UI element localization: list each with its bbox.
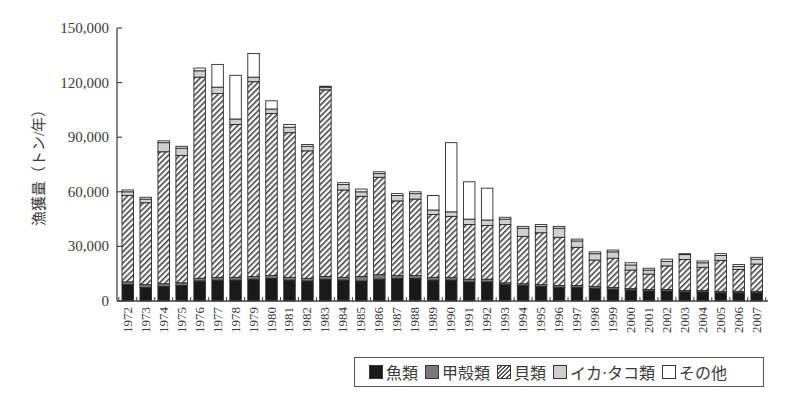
legend-label: 甲殻類 xyxy=(442,360,490,384)
bar-segment-other xyxy=(535,225,547,227)
x-tick-label: 1996 xyxy=(551,307,566,334)
x-tick-label: 1999 xyxy=(605,307,620,333)
bar-segment-squid xyxy=(553,228,565,237)
bar-segment-squid xyxy=(194,71,206,77)
bar-segment-squid xyxy=(302,146,314,151)
bar-segment-squid xyxy=(571,241,583,247)
y-axis-title: 漁獲量（トン/年） xyxy=(31,102,47,226)
bar-segment-fish xyxy=(230,280,242,301)
bar-segment-fish xyxy=(535,286,547,301)
bar-segment-other xyxy=(302,144,314,146)
bar-segment-fish xyxy=(445,280,457,301)
x-tick-label: 1995 xyxy=(533,307,548,333)
y-tick-label: 150,000 xyxy=(60,20,109,36)
bar-segment-fish xyxy=(661,291,673,301)
bar-segment-fish xyxy=(140,287,152,301)
bar-segment-fish xyxy=(320,279,332,301)
bar-1977 xyxy=(212,64,224,301)
x-tick-label: 1986 xyxy=(371,307,386,334)
legend-item-shellfish: 貝類 xyxy=(497,360,546,384)
bar-segment-fish xyxy=(589,288,601,301)
bar-segment-squid xyxy=(499,219,511,224)
bar-segment-other xyxy=(266,101,278,109)
bar-segment-squid xyxy=(410,194,422,199)
bar-segment-shell xyxy=(248,82,259,277)
bar-segment-squid xyxy=(374,174,386,178)
bar-segment-other xyxy=(338,183,350,185)
bar-segment-fish xyxy=(266,278,278,301)
bar-segment-shell xyxy=(176,155,188,282)
bar-segment-fish xyxy=(122,285,134,301)
bar-segment-shell xyxy=(284,133,296,278)
bar-segment-shell xyxy=(679,260,691,291)
bar-segment-shell xyxy=(122,195,134,281)
fish-swatch-icon xyxy=(369,365,383,379)
bar-segment-squid xyxy=(715,256,727,261)
bar-segment-fish xyxy=(427,280,439,301)
bar-segment-shell xyxy=(553,237,565,285)
bar-segment-squid xyxy=(625,265,637,270)
bar-segment-squid xyxy=(643,270,655,274)
bar-1984 xyxy=(338,183,350,301)
bar-segment-fish xyxy=(410,278,422,301)
x-tick-label: 2002 xyxy=(659,307,674,333)
bar-segment-shell xyxy=(356,196,368,276)
bar-segment-shell xyxy=(733,270,745,292)
bar-2005 xyxy=(715,254,727,301)
bar-segment-other xyxy=(733,265,745,267)
bar-segment-other xyxy=(589,252,601,254)
bar-segment-other xyxy=(176,146,188,148)
bar-segment-shell xyxy=(625,270,637,289)
bar-segment-other xyxy=(697,261,709,263)
bar-segment-squid xyxy=(338,185,350,190)
bar-1989 xyxy=(427,195,439,301)
bar-segment-other xyxy=(427,195,439,210)
bar-segment-shell xyxy=(715,260,727,291)
bar-segment-fish xyxy=(481,282,493,301)
bar-segment-shell xyxy=(374,177,386,274)
bar-segment-other xyxy=(553,226,565,228)
bar-1991 xyxy=(463,182,475,301)
bar-segment-squid xyxy=(535,226,547,232)
x-tick-label: 2001 xyxy=(641,307,656,333)
bar-segment-fish xyxy=(733,293,745,301)
x-tick-label: 1982 xyxy=(299,307,314,333)
bar-segment-other xyxy=(499,217,511,219)
bar-segment-squid xyxy=(607,252,619,258)
bar-segment-squid xyxy=(266,109,278,114)
bar-segment-squid xyxy=(356,192,368,197)
x-tick-label: 1988 xyxy=(407,307,422,333)
x-tick-label: 1991 xyxy=(461,307,476,333)
bar-1992 xyxy=(481,188,493,301)
bar-segment-squid xyxy=(392,195,404,200)
x-tick-label: 1978 xyxy=(228,307,243,333)
bar-segment-fish xyxy=(643,291,655,301)
bar-1995 xyxy=(535,225,547,301)
bar-segment-shell xyxy=(697,267,709,290)
x-tick-label: 2000 xyxy=(623,307,638,333)
bar-segment-squid xyxy=(679,255,691,260)
y-tick-label: 120,000 xyxy=(60,75,109,91)
x-tick-label: 2006 xyxy=(731,307,746,334)
bar-segment-fish xyxy=(517,286,529,301)
bar-segment-fish xyxy=(751,293,763,301)
bar-segment-shell xyxy=(661,266,673,290)
bar-segment-shell xyxy=(212,94,224,278)
legend-label: イカ·タコ類 xyxy=(570,360,655,384)
x-tick-label: 1973 xyxy=(138,307,153,333)
x-tick-label: 1975 xyxy=(174,307,189,333)
bar-segment-other xyxy=(517,226,529,228)
bar-segment-squid xyxy=(248,77,259,82)
bar-segment-shell xyxy=(517,236,529,283)
bar-segment-other xyxy=(625,263,637,265)
bar-segment-shell xyxy=(751,264,763,291)
bar-1981 xyxy=(284,124,296,301)
legend-item-fish: 魚類 xyxy=(369,360,418,384)
bar-segment-squid xyxy=(463,219,475,224)
bar-segment-shell xyxy=(427,215,439,278)
x-tick-label: 2005 xyxy=(713,307,728,333)
y-tick-label: 60,000 xyxy=(68,184,109,200)
bar-segment-fish xyxy=(607,289,619,301)
x-tick-label: 1989 xyxy=(425,307,440,333)
bar-segment-other xyxy=(571,239,583,241)
